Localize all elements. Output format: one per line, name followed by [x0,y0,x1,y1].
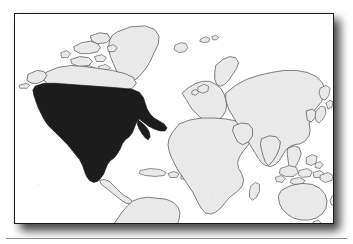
figure-page: .land { fill:#e9e9e9; stroke:#5e5e5e; st… [0,0,353,244]
world-map-figure: .land { fill:#e9e9e9; stroke:#5e5e5e; st… [14,13,334,224]
bottom-divider-rule [6,238,347,239]
map-canvas: .land { fill:#e9e9e9; stroke:#5e5e5e; st… [15,14,333,223]
